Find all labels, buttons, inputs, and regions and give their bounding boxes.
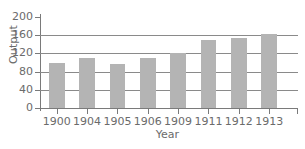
bar: [79, 58, 95, 108]
y-tick-label: 40: [0, 84, 33, 95]
bar-chart: Output 04080120160200 190019041905190619…: [0, 0, 305, 149]
x-tick-mark: [178, 109, 179, 114]
x-tick-mark: [269, 109, 270, 114]
y-tick-label: 80: [0, 66, 33, 77]
bar: [140, 58, 156, 109]
x-tick-mark: [239, 109, 240, 114]
x-tick-label: 1913: [249, 116, 289, 127]
bar: [170, 53, 186, 108]
y-tick-label: 0: [0, 102, 33, 113]
x-tick-mark: [117, 109, 118, 114]
bar: [201, 40, 217, 108]
bar: [231, 38, 247, 108]
x-tick-mark-end: [297, 109, 298, 114]
y-tick-label: 200: [0, 11, 33, 22]
x-axis-title: Year: [40, 128, 295, 141]
y-tick-mark: [35, 108, 41, 109]
plot-area: [40, 17, 298, 108]
y-tick-label: 160: [0, 29, 33, 40]
x-axis-line: [40, 108, 298, 109]
x-tick-mark: [208, 109, 209, 114]
gridline: [40, 35, 298, 36]
gridline: [40, 53, 298, 54]
y-tick-label: 120: [0, 47, 33, 58]
x-tick-mark: [57, 109, 58, 114]
x-tick-mark: [148, 109, 149, 114]
x-tick-mark: [87, 109, 88, 114]
bar: [49, 63, 65, 109]
bar: [261, 34, 277, 108]
bar: [110, 64, 126, 108]
